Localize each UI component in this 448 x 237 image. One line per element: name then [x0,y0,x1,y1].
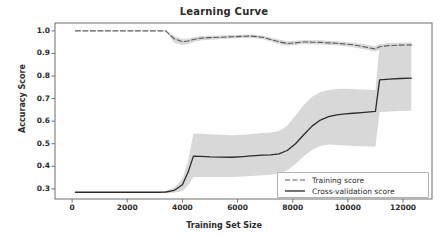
y-tick-label: 0.8 [24,71,50,80]
y-tick-label: 0.7 [24,94,50,103]
x-tick-label: 0 [42,203,102,212]
legend-label-cross-validation-score: Cross-validation score [312,187,395,196]
x-tick-label: 12000 [373,203,433,212]
x-axis-label: Training Set Size [0,221,448,230]
y-tick-label: 0.3 [24,184,50,193]
y-tick-label: 0.5 [24,139,50,148]
x-tick-label: 8000 [263,203,323,212]
legend-label-training-score: Training score [312,176,364,185]
y-tick-label: 0.6 [24,116,50,125]
x-tick-label: 10000 [318,203,378,212]
y-tick-label: 0.9 [24,48,50,57]
y-tick-label: 1.0 [24,26,50,35]
legend: Training score Cross-validation score [277,172,429,198]
y-tick-label: 0.4 [24,161,50,170]
x-tick-label: 6000 [208,203,268,212]
x-tick-label: 2000 [97,203,157,212]
plot-canvas [0,0,448,237]
legend-swatch-dashed [284,175,306,185]
learning-curve-figure: Learning Curve Training Set Size Accurac… [0,0,448,237]
legend-item-cross-validation-score: Cross-validation score [284,185,395,197]
x-tick-label: 4000 [152,203,212,212]
legend-swatch-solid [284,186,306,196]
